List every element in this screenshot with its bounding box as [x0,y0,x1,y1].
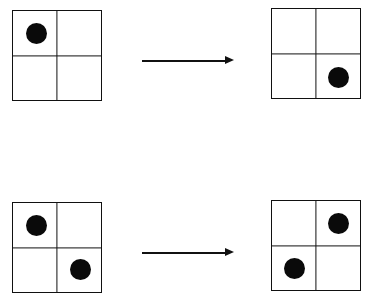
grid-divider-horizontal [272,245,360,246]
dot-top-right [328,213,349,234]
dot-top-left [26,23,47,44]
grid-divider-horizontal [13,55,101,56]
dot-bottom-right [70,259,91,280]
dot-top-left [26,215,47,236]
grid-row1-before [12,10,102,101]
grid-divider-horizontal [272,53,360,54]
grid-row1-after [271,8,361,99]
grid-divider-horizontal [13,247,101,248]
grid-row2-after [271,200,361,291]
arrow-right-icon [142,60,226,62]
arrow-right-icon [142,252,226,254]
dot-bottom-left [284,258,305,279]
dot-bottom-right [328,67,349,88]
grid-row2-before [12,202,102,293]
